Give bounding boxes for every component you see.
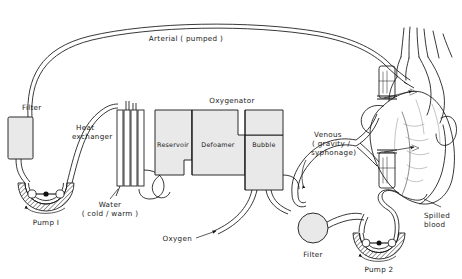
- suction-filter: [298, 213, 328, 243]
- oxygenator-assembly: [155, 110, 283, 190]
- pump1-to-heat-exchanger-tubing: [67, 104, 118, 183]
- spilled-blood-label-line1: Spilled: [424, 211, 450, 220]
- venous-label-line2: ( gravity /: [312, 139, 351, 148]
- roller-pump-2: [353, 233, 405, 261]
- arterial-label: Arterial ( pumped ): [149, 34, 223, 43]
- bubble-label: Bubble: [252, 141, 275, 149]
- filter-to-pump2-tubing: [327, 213, 368, 233]
- heat-exchanger-label-line2: exchanger: [72, 132, 113, 141]
- reservoir-label: Reservoir: [157, 141, 189, 149]
- defoamer-label: Defoamer: [201, 141, 234, 149]
- heart-illustration: [361, 27, 456, 204]
- oxygen-leader-line: [196, 231, 216, 238]
- venous-label-line1: Venous: [314, 130, 342, 139]
- cpb-circuit-diagram: Arterial ( pumped ) Filter Pump I: [0, 0, 462, 279]
- oxygen-inlet-tubing: [214, 190, 257, 234]
- arterial-filter-label: Filter: [22, 103, 42, 112]
- venous-label-line3: syphonage): [311, 148, 356, 157]
- suction-filter-label: Filter: [303, 250, 323, 259]
- oxygenator-label: Oxygenator: [209, 96, 254, 105]
- water-label-line1: Water: [99, 200, 122, 209]
- venous-cannula-connector-tubing: [356, 114, 379, 166]
- water-label-line2: ( cold / warm ): [82, 209, 139, 218]
- pump2-label: Pump 2: [365, 265, 394, 274]
- spilled-blood-label-line2: blood: [424, 220, 445, 229]
- ivc-cannula: [377, 150, 397, 188]
- filter-to-pump1-tubing: [16, 159, 30, 183]
- oxygen-label: Oxygen: [162, 234, 192, 243]
- diagram-canvas: Arterial ( pumped ) Filter Pump I: [0, 0, 462, 279]
- arterial-filter: [8, 117, 33, 159]
- roller-pump-1: [18, 183, 74, 213]
- svc-snare-arrow: [384, 91, 412, 98]
- pump1-label: Pump I: [33, 218, 60, 227]
- venous-flow-arrow: [302, 160, 306, 185]
- heat-exchanger-label-line1: Heat: [76, 123, 94, 132]
